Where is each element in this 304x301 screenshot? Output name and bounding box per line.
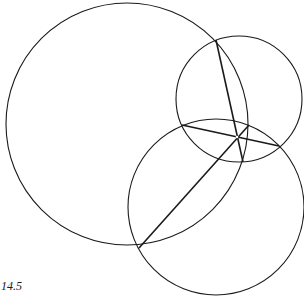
chord-small-bottom	[182, 125, 279, 146]
radical-center-point	[236, 136, 239, 139]
chord-large-small	[216, 40, 243, 162]
large-circle	[6, 3, 248, 245]
figure-caption: 14.5	[1, 279, 22, 294]
radical-axes-diagram	[0, 0, 304, 301]
